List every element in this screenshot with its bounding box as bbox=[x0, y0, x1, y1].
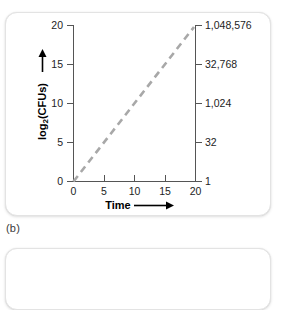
figure-panel-next bbox=[5, 248, 271, 310]
figure-caption-b: (b) bbox=[6, 222, 20, 234]
figure-panel-b bbox=[5, 12, 271, 216]
